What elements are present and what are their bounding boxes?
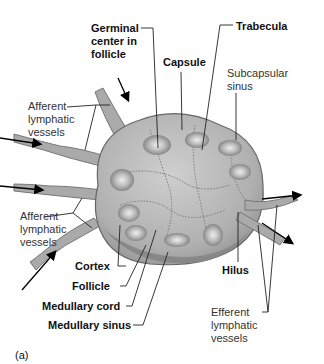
label-germinal-center: Germinal center in follicle — [91, 22, 139, 61]
lymph-node-diagram: Germinal center in follicle Capsule Trab… — [0, 0, 324, 364]
label-hilus: Hilus — [222, 264, 249, 277]
label-afferent-vessels-top: Afferent lymphatic vessels — [28, 100, 74, 139]
label-medullary-sinus: Medullary sinus — [48, 319, 131, 332]
label-subcapsular-sinus: Subcapsular sinus — [227, 67, 288, 93]
label-follicle: Follicle — [72, 280, 110, 293]
label-capsule: Capsule — [163, 56, 206, 69]
label-medullary-cord: Medullary cord — [42, 300, 120, 313]
label-cortex: Cortex — [75, 260, 110, 273]
label-efferent-vessels: Efferent lymphatic vessels — [211, 306, 257, 345]
label-afferent-vessels-bottom: Afferent lymphatic vessels — [20, 210, 66, 249]
label-trabecula: Trabecula — [236, 20, 287, 33]
panel-label: (a) — [15, 349, 28, 362]
